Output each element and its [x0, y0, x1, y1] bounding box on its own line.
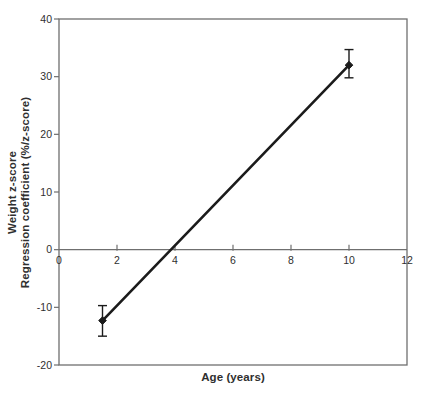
x-tick-label: 8: [288, 254, 294, 266]
y-axis-title-line1: Weight z-score: [6, 19, 19, 367]
y-tick-label: 20: [40, 128, 52, 140]
x-axis-title: Age (years): [59, 371, 407, 383]
y-tick-label: -10: [37, 301, 52, 313]
x-tick-label: 12: [401, 254, 413, 266]
y-tick-label: 10: [40, 186, 52, 198]
regression-line: [103, 65, 350, 320]
y-axis-title: Weight z-score Regression coefficient (%…: [6, 19, 33, 367]
x-tick-label: 10: [343, 254, 355, 266]
y-axis-title-line2: Regression coefficient (%/z-score): [19, 19, 32, 367]
x-tick-label: 0: [56, 254, 62, 266]
y-tick-label: -20: [37, 359, 52, 371]
plot-canvas: 403020100-10-20024681012: [0, 0, 423, 398]
regression-line-chart: 403020100-10-20024681012 Weight z-score …: [0, 0, 423, 398]
x-tick-label: 2: [114, 254, 120, 266]
y-tick-label: 30: [40, 70, 52, 82]
y-tick-label: 40: [40, 13, 52, 25]
y-tick-label: 0: [46, 243, 52, 255]
x-tick-label: 6: [230, 254, 236, 266]
x-tick-label: 4: [172, 254, 178, 266]
